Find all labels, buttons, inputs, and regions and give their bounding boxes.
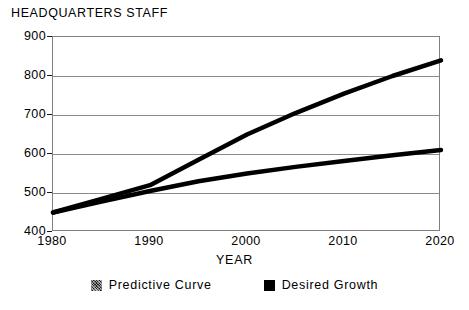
y-tick-label: 500 — [24, 185, 46, 199]
plot-area — [52, 36, 440, 231]
series-line-predictive-curve — [53, 60, 441, 212]
y-tick-label: 900 — [24, 29, 46, 43]
y-tick-label: 600 — [24, 146, 46, 160]
legend-item-label: Predictive Curve — [109, 278, 212, 292]
x-tick-label: 1980 — [37, 234, 66, 248]
chart-figure: HEADQUARTERS STAFF 900 800 700 600 500 4… — [0, 0, 469, 310]
x-tick-label: 2010 — [328, 234, 357, 248]
legend-swatch-icon — [264, 280, 275, 291]
y-tick-label: 700 — [24, 107, 46, 121]
legend-swatch-icon — [91, 280, 102, 291]
x-tick-label: 1990 — [134, 234, 163, 248]
legend-item-desired-growth: Desired Growth — [264, 278, 379, 292]
series-layer — [53, 37, 441, 232]
chart-legend: Predictive Curve Desired Growth — [0, 278, 469, 292]
series-line-desired-growth — [53, 150, 441, 212]
x-axis-label: YEAR — [0, 253, 469, 267]
x-tick-label: 2020 — [425, 234, 454, 248]
x-tick-label: 2000 — [231, 234, 260, 248]
legend-item-predictive-curve: Predictive Curve — [91, 278, 212, 292]
y-tick-label: 800 — [24, 68, 46, 82]
legend-item-label: Desired Growth — [282, 278, 379, 292]
